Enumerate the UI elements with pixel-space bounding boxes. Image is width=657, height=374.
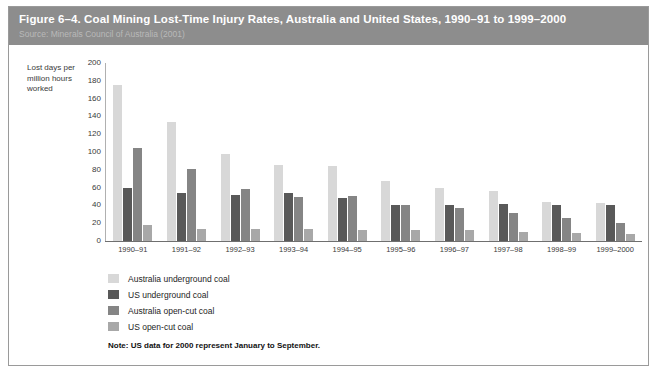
- y-tick-label: 100: [75, 148, 101, 156]
- figure-header: Figure 6–4. Coal Mining Lost-Time Injury…: [9, 7, 648, 45]
- bar-group: [542, 63, 581, 241]
- chart-legend: Australia underground coalUS underground…: [108, 271, 230, 335]
- bar: [294, 197, 303, 241]
- bar: [348, 196, 357, 241]
- bar: [123, 188, 132, 241]
- bar: [177, 193, 186, 241]
- bar: [197, 229, 206, 241]
- bar: [133, 148, 142, 241]
- bar: [552, 205, 561, 241]
- bar-group: [167, 63, 206, 241]
- bar: [455, 208, 464, 241]
- bar-group: [381, 63, 420, 241]
- bar: [113, 85, 122, 241]
- bar: [562, 218, 571, 241]
- legend-label: US open-cut coal: [128, 322, 193, 332]
- figure-page: Figure 6–4. Coal Mining Lost-Time Injury…: [0, 0, 657, 374]
- bar: [251, 229, 260, 241]
- bar-group: [596, 63, 635, 241]
- figure-note: Note: US data for 2000 represent January…: [108, 341, 320, 350]
- bar: [499, 204, 508, 241]
- x-tick-label: 1999–2000: [582, 245, 648, 254]
- bar: [542, 202, 551, 241]
- y-tick-label: 160: [75, 95, 101, 103]
- bar: [381, 181, 390, 241]
- bar-group: [113, 63, 152, 241]
- bar: [626, 234, 635, 241]
- legend-item: Australia open-cut coal: [108, 303, 230, 318]
- y-tick-label: 120: [75, 130, 101, 138]
- figure-title: Figure 6–4. Coal Mining Lost-Time Injury…: [19, 13, 566, 25]
- bar: [616, 223, 625, 241]
- bar-group: [435, 63, 474, 241]
- y-tick-label: 0: [75, 237, 101, 245]
- bar: [606, 205, 615, 241]
- bar: [328, 166, 337, 241]
- legend-label: US underground coal: [128, 290, 208, 300]
- bar: [284, 193, 293, 241]
- bar-group: [221, 63, 260, 241]
- bar-group: [274, 63, 313, 241]
- bar: [445, 205, 454, 241]
- bar: [411, 230, 420, 241]
- bar: [187, 169, 196, 241]
- y-tick-label: 60: [75, 184, 101, 192]
- bar: [519, 232, 528, 241]
- chart-area: Lost days per million hours worked 20018…: [9, 45, 648, 366]
- bar: [304, 229, 313, 241]
- bar: [435, 188, 444, 241]
- y-tick-label: 20: [75, 219, 101, 227]
- bar: [274, 165, 283, 241]
- legend-item: US open-cut coal: [108, 319, 230, 334]
- bar: [231, 195, 240, 241]
- legend-label: Australia open-cut coal: [128, 306, 214, 316]
- y-tick-label: 180: [75, 77, 101, 85]
- legend-swatch-icon: [108, 274, 119, 283]
- bar: [391, 205, 400, 241]
- bar: [572, 233, 581, 241]
- bar: [465, 230, 474, 241]
- bar: [143, 225, 152, 241]
- legend-item: US underground coal: [108, 287, 230, 302]
- bar: [338, 198, 347, 241]
- legend-swatch-icon: [108, 306, 119, 315]
- bar-group: [489, 63, 528, 241]
- y-tick-label: 140: [75, 112, 101, 120]
- legend-swatch-icon: [108, 322, 119, 331]
- bar: [167, 122, 176, 241]
- legend-item: Australia underground coal: [108, 271, 230, 286]
- legend-swatch-icon: [108, 290, 119, 299]
- x-axis-line: [105, 241, 642, 242]
- figure-source: Source: Minerals Council of Australia (2…: [19, 29, 185, 39]
- y-tick-label: 200: [75, 59, 101, 67]
- bar: [358, 230, 367, 241]
- bar-group: [328, 63, 367, 241]
- bar-plot: [106, 63, 642, 241]
- bar: [489, 191, 498, 241]
- bar: [401, 205, 410, 241]
- y-tick-label: 80: [75, 166, 101, 174]
- bar: [596, 203, 605, 241]
- legend-label: Australia underground coal: [128, 274, 230, 284]
- bar: [241, 189, 250, 242]
- y-tick-label: 40: [75, 201, 101, 209]
- bar: [509, 213, 518, 241]
- bar: [221, 154, 230, 241]
- figure-frame: Figure 6–4. Coal Mining Lost-Time Injury…: [8, 6, 649, 366]
